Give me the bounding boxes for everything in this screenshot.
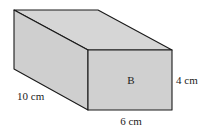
height-label: 4 cm <box>176 74 198 86</box>
face-label-b: B <box>127 74 134 86</box>
length-label: 10 cm <box>17 90 45 102</box>
width-label: 6 cm <box>120 115 142 127</box>
cuboid-diagram: B 4 cm 6 cm 10 cm <box>0 0 215 130</box>
